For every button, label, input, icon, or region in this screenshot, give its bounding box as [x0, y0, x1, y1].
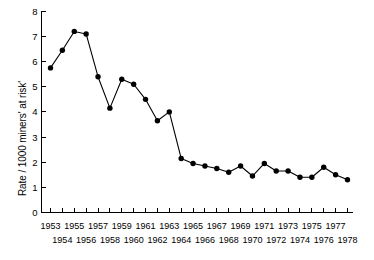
x-tick-label: 1953: [40, 221, 60, 231]
data-point: [167, 109, 172, 114]
y-axis-ticks: [42, 11, 47, 212]
x-tick-label: 1960: [124, 235, 144, 245]
x-tick-label: 1971: [254, 221, 274, 231]
x-tick-label: 1972: [266, 235, 286, 245]
data-point: [333, 172, 338, 177]
data-point: [274, 168, 279, 173]
data-point: [95, 74, 100, 79]
data-point: [190, 161, 195, 166]
data-point: [345, 177, 350, 182]
chart-figure: 012345678 195319551957195919611963196519…: [0, 0, 374, 260]
x-tick-label: 1969: [231, 221, 251, 231]
data-point: [226, 170, 231, 175]
x-tick-label: 1970: [242, 235, 262, 245]
data-point: [238, 163, 243, 168]
x-tick-label: 1958: [100, 235, 120, 245]
x-tick-label: 1967: [207, 221, 227, 231]
x-tick-label: 1978: [337, 235, 357, 245]
data-point: [131, 82, 136, 87]
data-point: [72, 29, 77, 34]
data-series: [48, 29, 350, 183]
x-tick-label: 1964: [171, 235, 191, 245]
y-axis-label: Rate / 1000 miners' at risk': [17, 0, 33, 196]
x-tick-label: 1962: [147, 235, 167, 245]
data-point: [321, 165, 326, 170]
data-point: [119, 77, 124, 82]
data-point: [285, 168, 290, 173]
x-tick-label: 1963: [159, 221, 179, 231]
x-tick-label: 1954: [52, 235, 72, 245]
x-axis-tick-labels-even-years: 1954195619581960196219641966196819701972…: [52, 235, 357, 245]
x-axis-ticks: [51, 208, 348, 213]
data-point: [297, 175, 302, 180]
x-tick-label: 1976: [314, 235, 334, 245]
y-axis: 012345678: [32, 6, 46, 218]
x-tick-label: 1956: [76, 235, 96, 245]
y-tick-label: 0: [32, 207, 37, 218]
line-chart-plot: 012345678 195319551957195919611963196519…: [0, 0, 374, 260]
data-point: [262, 161, 267, 166]
data-point: [250, 173, 255, 178]
data-point: [48, 65, 53, 70]
x-tick-label: 1975: [302, 221, 322, 231]
data-point: [178, 156, 183, 161]
x-tick-label: 1974: [290, 235, 310, 245]
series-markers: [48, 29, 350, 183]
series-line-rate: [51, 31, 348, 179]
x-tick-label: 1961: [136, 221, 156, 231]
data-point: [309, 175, 314, 180]
x-tick-label: 1968: [219, 235, 239, 245]
x-axis-tick-labels-odd-years: 1953195519571959196119631965196719691971…: [40, 221, 345, 231]
x-axis: 1953195519571959196119631965196719691971…: [40, 208, 357, 245]
x-tick-label: 1955: [64, 221, 84, 231]
x-tick-label: 1965: [183, 221, 203, 231]
x-tick-label: 1959: [112, 221, 132, 231]
data-point: [143, 97, 148, 102]
data-point: [107, 105, 112, 110]
data-point: [83, 31, 88, 36]
data-point: [202, 163, 207, 168]
x-tick-label: 1966: [195, 235, 215, 245]
data-point: [155, 118, 160, 123]
x-tick-label: 1973: [278, 221, 298, 231]
data-point: [60, 48, 65, 53]
x-tick-label: 1977: [326, 221, 346, 231]
data-point: [214, 166, 219, 171]
x-tick-label: 1957: [88, 221, 108, 231]
